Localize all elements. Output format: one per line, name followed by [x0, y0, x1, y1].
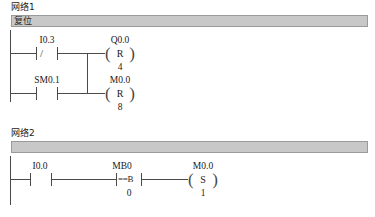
- wire-rail-to-contact-2: [10, 93, 36, 94]
- network-1-comment-bar[interactable]: 复位: [11, 15, 368, 27]
- contact-i03-normally-closed[interactable]: /: [36, 47, 58, 60]
- compare-label-mb0: MB0: [100, 161, 144, 172]
- compare-bar-left: [116, 173, 117, 186]
- coil-m00-set[interactable]: ( S ): [188, 172, 218, 187]
- wire-contact-to-coil-2: [57, 93, 105, 94]
- coil-paren-right-icon: ): [129, 84, 135, 103]
- contact-bar-left: [30, 173, 31, 186]
- coil-operand-q00[interactable]: 4: [100, 62, 140, 73]
- coil-paren-right-icon: ): [129, 44, 135, 63]
- coil-m00-reset[interactable]: ( R ): [105, 86, 135, 101]
- contact-bar-left: [36, 47, 37, 60]
- power-rail-left: [10, 156, 11, 205]
- compare-operator-icon: ==B: [118, 172, 133, 186]
- wire-rail-to-contact-3: [10, 179, 30, 180]
- wire-rail-to-contact-1: [10, 53, 36, 54]
- coil-operand-m00-reset[interactable]: 8: [100, 102, 140, 113]
- contact-label-i00: I0.0: [20, 161, 60, 172]
- network-1: 网络1 复位 I0.3 / Q0.0 ( R ) 4 SM0.1 M0.0 ( …: [0, 2, 375, 122]
- wire-compare-to-coil: [141, 179, 188, 180]
- normally-closed-slash-icon: /: [40, 46, 43, 60]
- network-2: 网络2 I0.0 MB0 ==B 0 M0.0 ( S ) 1: [0, 128, 375, 213]
- wire-contact-to-coil-1: [57, 53, 105, 54]
- branch-connector-vertical: [87, 53, 88, 94]
- power-rail-left: [10, 30, 11, 102]
- network-1-title: 网络1: [11, 2, 35, 13]
- wire-contact-to-compare: [51, 179, 117, 180]
- contact-label-sm01: SM0.1: [25, 75, 69, 86]
- network-2-comment-bar[interactable]: [11, 141, 368, 153]
- compare-operand-mb0[interactable]: 0: [107, 188, 151, 199]
- coil-operand-m00-set[interactable]: 1: [183, 188, 223, 199]
- contact-i00-normally-open[interactable]: [30, 173, 52, 186]
- coil-q00-reset[interactable]: ( R ): [105, 46, 135, 61]
- coil-paren-right-icon: ): [212, 170, 218, 189]
- compare-block-byte-equal[interactable]: ==B: [116, 173, 142, 186]
- contact-sm01-normally-open[interactable]: [36, 87, 58, 100]
- contact-label-i03: I0.3: [27, 35, 67, 46]
- contact-bar-left: [36, 87, 37, 100]
- network-2-title: 网络2: [11, 128, 35, 139]
